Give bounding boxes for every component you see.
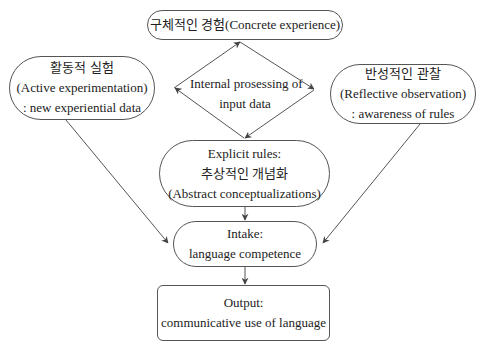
- node-reflective-observation: 반성적인 관찰 (Reflective observation) : aware…: [330, 64, 476, 124]
- node-active-experimentation: 활동적 실험 (Active experimentation) : new ex…: [9, 56, 155, 120]
- node-active-line-2: (Active experimentation): [16, 78, 147, 98]
- edge-reflective-to-intake: [323, 124, 420, 243]
- node-explicit-line-2: 추상적인 개념화: [201, 164, 288, 184]
- edge-active-to-intake: [66, 120, 168, 243]
- node-reflective-line-2: (Reflective observation): [340, 84, 466, 104]
- internal-line-2: input data: [190, 94, 300, 114]
- node-intake: Intake: language competence: [173, 221, 317, 267]
- node-reflective-line-3: : awareness of rules: [352, 104, 455, 124]
- node-intake-line-2: language competence: [189, 244, 301, 264]
- node-active-line-3: : new experiential data: [23, 98, 141, 118]
- node-explicit-line-1: Explicit rules:: [208, 144, 281, 164]
- node-reflective-line-1: 반성적인 관찰: [365, 64, 440, 84]
- node-active-line-1: 활동적 실험: [50, 58, 113, 78]
- internal-processing-label: Internal prosessing of input data: [190, 74, 300, 114]
- node-output-line-1: Output:: [224, 293, 264, 313]
- node-concrete-line-1: 구체적인 경험(Concrete experience): [150, 15, 340, 35]
- node-intake-line-1: Intake:: [227, 224, 263, 244]
- node-concrete-experience: 구체적인 경험(Concrete experience): [147, 10, 343, 40]
- internal-line-1: Internal prosessing of: [190, 74, 300, 94]
- node-output: Output: communicative use of language: [157, 285, 330, 341]
- node-explicit-rules: Explicit rules: 추상적인 개념화 (Abstract conce…: [159, 140, 330, 207]
- node-output-line-2: communicative use of language: [161, 313, 326, 333]
- node-explicit-line-3: (Abstract conceptualizations): [168, 184, 321, 204]
